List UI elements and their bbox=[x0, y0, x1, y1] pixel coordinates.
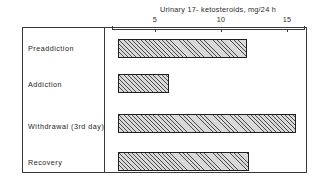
bar-chart-figure: Urinary 17- ketosteroids, mg/24 h 5 10 1… bbox=[0, 0, 321, 187]
x-tick-label-15: 15 bbox=[283, 15, 292, 24]
category-label-addiction: Addiction bbox=[28, 80, 62, 89]
category-label-recovery: Recovery bbox=[28, 158, 62, 167]
bar-preaddiction bbox=[118, 39, 247, 58]
category-label-preaddiction: Preaddiction bbox=[28, 44, 74, 53]
x-axis-right-cap bbox=[304, 26, 305, 30]
bar-withdrawal bbox=[118, 114, 296, 133]
label-panel-divider bbox=[104, 27, 105, 173]
x-tick-mark-5 bbox=[155, 29, 156, 32]
chart-title: Urinary 17- ketosteroids, mg/24 h bbox=[118, 5, 318, 14]
x-axis-left-cap bbox=[112, 26, 113, 30]
x-tick-mark-10 bbox=[221, 29, 222, 32]
x-tick-label-5: 5 bbox=[153, 15, 157, 24]
x-tick-mark-15 bbox=[287, 29, 288, 32]
x-tick-label-10: 10 bbox=[217, 15, 226, 24]
bar-recovery bbox=[118, 152, 249, 171]
category-label-withdrawal: Withdrawal (3rd day) bbox=[28, 122, 104, 131]
bar-addiction bbox=[118, 74, 169, 93]
x-axis-line bbox=[112, 29, 304, 30]
